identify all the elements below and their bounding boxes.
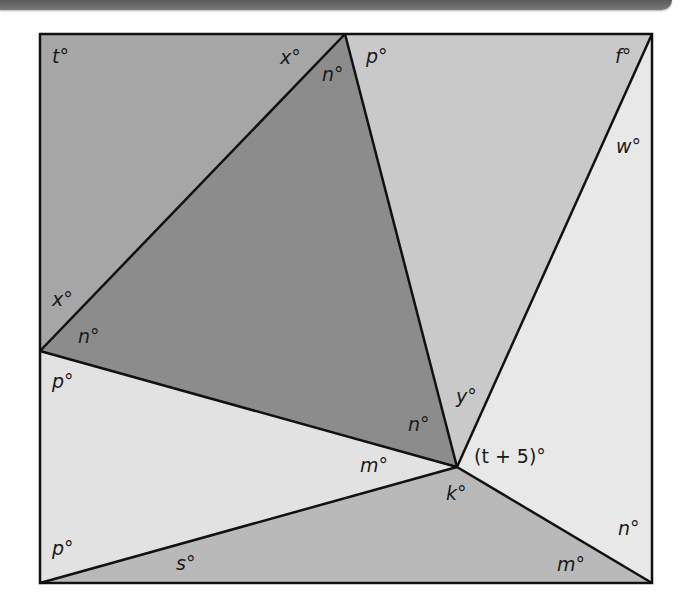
angle-label-m-center: m° bbox=[360, 454, 388, 476]
angle-label-t: t° bbox=[52, 45, 69, 67]
angle-label-p-top: p° bbox=[365, 45, 388, 67]
angle-label-n-left: n° bbox=[78, 325, 100, 347]
angle-label-s: s° bbox=[176, 552, 195, 574]
angle-label-k: k° bbox=[446, 482, 467, 504]
angle-label-n-center: n° bbox=[408, 413, 430, 435]
geometry-figure: t° x° n° p° f° w° x° n° p° y° n° (t + 5)… bbox=[0, 0, 681, 611]
angle-label-n-top: n° bbox=[322, 63, 344, 85]
angle-label-n-right: n° bbox=[618, 517, 640, 539]
angle-label-p-bottom: p° bbox=[51, 537, 74, 559]
angle-label-y: y° bbox=[455, 385, 477, 407]
angle-label-p-left: p° bbox=[51, 370, 74, 392]
angle-label-m-right: m° bbox=[557, 553, 585, 575]
angle-label-t-plus-5: (t + 5)° bbox=[474, 445, 546, 467]
angle-label-x-top: x° bbox=[279, 46, 301, 68]
angle-label-w: w° bbox=[616, 135, 641, 157]
angle-label-f: f° bbox=[615, 45, 631, 67]
angle-label-x-left: x° bbox=[51, 288, 73, 310]
